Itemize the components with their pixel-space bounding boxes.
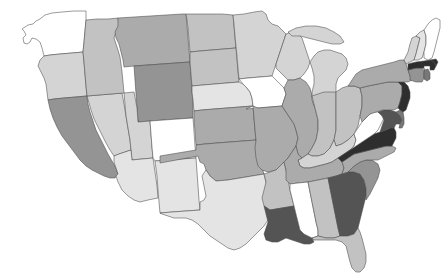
state-ks[interactable] bbox=[194, 106, 256, 145]
state-or[interactable] bbox=[38, 52, 87, 100]
state-wy[interactable] bbox=[134, 62, 193, 122]
state-me[interactable] bbox=[424, 18, 440, 60]
state-nm[interactable] bbox=[155, 158, 200, 213]
state-ct[interactable] bbox=[408, 68, 424, 82]
us-map-svg bbox=[0, 0, 442, 278]
state-mt[interactable] bbox=[115, 14, 190, 67]
state-ri[interactable] bbox=[424, 69, 430, 81]
choropleth-map bbox=[0, 0, 442, 278]
state-sd[interactable] bbox=[190, 48, 239, 86]
state-wa[interactable] bbox=[22, 11, 86, 56]
state-nd[interactable] bbox=[186, 14, 236, 52]
